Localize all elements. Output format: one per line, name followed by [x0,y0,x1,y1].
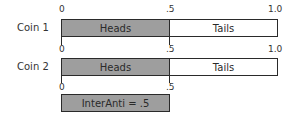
tails-label: Tails [213,62,234,73]
tick-label-half: .5 [166,5,175,14]
tails-label: Tails [213,23,234,34]
coin-1-heads-segment: Heads [61,19,170,37]
tick-label-zero: 0 [59,83,65,92]
tick-label-half: .5 [166,83,175,92]
tick-label-one: 1.0 [268,5,282,14]
heads-label: Heads [100,23,131,34]
coin-2-heads-segment: Heads [61,58,170,76]
coin-2-tails-segment: Tails [170,58,278,76]
row-label-coin-1: Coin 1 [17,22,49,34]
interanti-label: InterAnti = .5 [82,98,150,109]
tick-label-one: 1.0 [268,45,282,54]
tick-label-zero: 0 [59,45,65,54]
coin-1-tails-segment: Tails [170,19,278,37]
interanti-result-bar: InterAnti = .5 [61,94,170,112]
tick-label-half: .5 [166,45,175,54]
row-label-coin-2: Coin 2 [17,61,49,73]
heads-label: Heads [100,62,131,73]
tick-label-zero: 0 [59,5,65,14]
